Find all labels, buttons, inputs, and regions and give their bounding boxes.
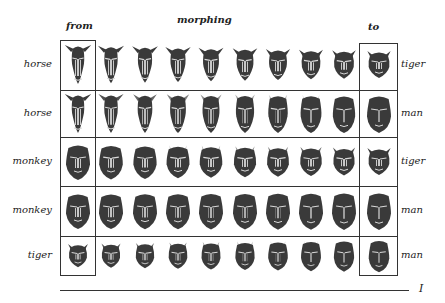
morph-face-icon <box>296 141 326 183</box>
morph-face-icon <box>130 44 160 86</box>
morph-face-icon <box>329 93 359 135</box>
row-divider <box>60 236 398 237</box>
morph-face-icon <box>96 93 126 135</box>
morph-face-icon <box>230 44 260 86</box>
bottom-rule <box>60 290 409 291</box>
morph-face-icon <box>96 44 126 86</box>
morph-face-icon <box>96 238 126 274</box>
row-label-to: man <box>401 107 423 118</box>
morph-face-icon <box>230 93 260 135</box>
morph-face-icon <box>196 190 226 232</box>
morph-face-icon <box>163 190 193 232</box>
row-label-from: monkey <box>0 155 52 166</box>
from-column-box <box>60 40 96 276</box>
row-label-to: man <box>401 249 423 260</box>
morph-face-icon <box>196 238 226 274</box>
morph-face-icon <box>296 44 326 86</box>
row-divider <box>60 90 398 91</box>
row-label-from: tiger <box>0 249 52 260</box>
morph-face-icon <box>230 190 260 232</box>
row-divider <box>60 186 398 187</box>
morph-face-icon <box>196 93 226 135</box>
header-to: to <box>368 21 379 32</box>
header-from: from <box>66 20 93 31</box>
morph-face-icon <box>130 190 160 232</box>
morph-face-icon <box>230 238 260 274</box>
morph-face-icon <box>329 44 359 86</box>
morph-face-icon <box>263 44 293 86</box>
morph-face-icon <box>230 141 260 183</box>
morph-face-icon <box>296 190 326 232</box>
row-divider <box>60 137 398 138</box>
morph-face-icon <box>196 141 226 183</box>
morph-face-icon <box>329 141 359 183</box>
morph-face-icon <box>263 93 293 135</box>
morph-face-icon <box>96 190 126 232</box>
morph-face-icon <box>130 238 160 274</box>
morph-face-icon <box>263 141 293 183</box>
morph-face-icon <box>329 190 359 232</box>
morph-face-icon <box>163 141 193 183</box>
row-label-to: tiger <box>401 58 425 69</box>
morph-face-icon <box>130 93 160 135</box>
to-column-box <box>359 43 398 276</box>
morph-face-icon <box>163 44 193 86</box>
header-morphing: morphing <box>177 14 232 25</box>
morph-face-icon <box>296 93 326 135</box>
morph-face-icon <box>263 238 293 274</box>
morph-face-icon <box>296 238 326 274</box>
row-label-to: man <box>401 204 423 215</box>
page-marker: I <box>419 282 423 295</box>
morph-face-icon <box>196 44 226 86</box>
morph-face-icon <box>130 141 160 183</box>
row-label-from: monkey <box>0 204 52 215</box>
morph-face-icon <box>263 190 293 232</box>
row-label-from: horse <box>0 107 52 118</box>
morph-face-icon <box>163 238 193 274</box>
row-label-to: tiger <box>401 155 425 166</box>
morph-face-icon <box>96 141 126 183</box>
morph-face-icon <box>329 238 359 274</box>
row-label-from: horse <box>0 58 52 69</box>
morph-face-icon <box>163 93 193 135</box>
